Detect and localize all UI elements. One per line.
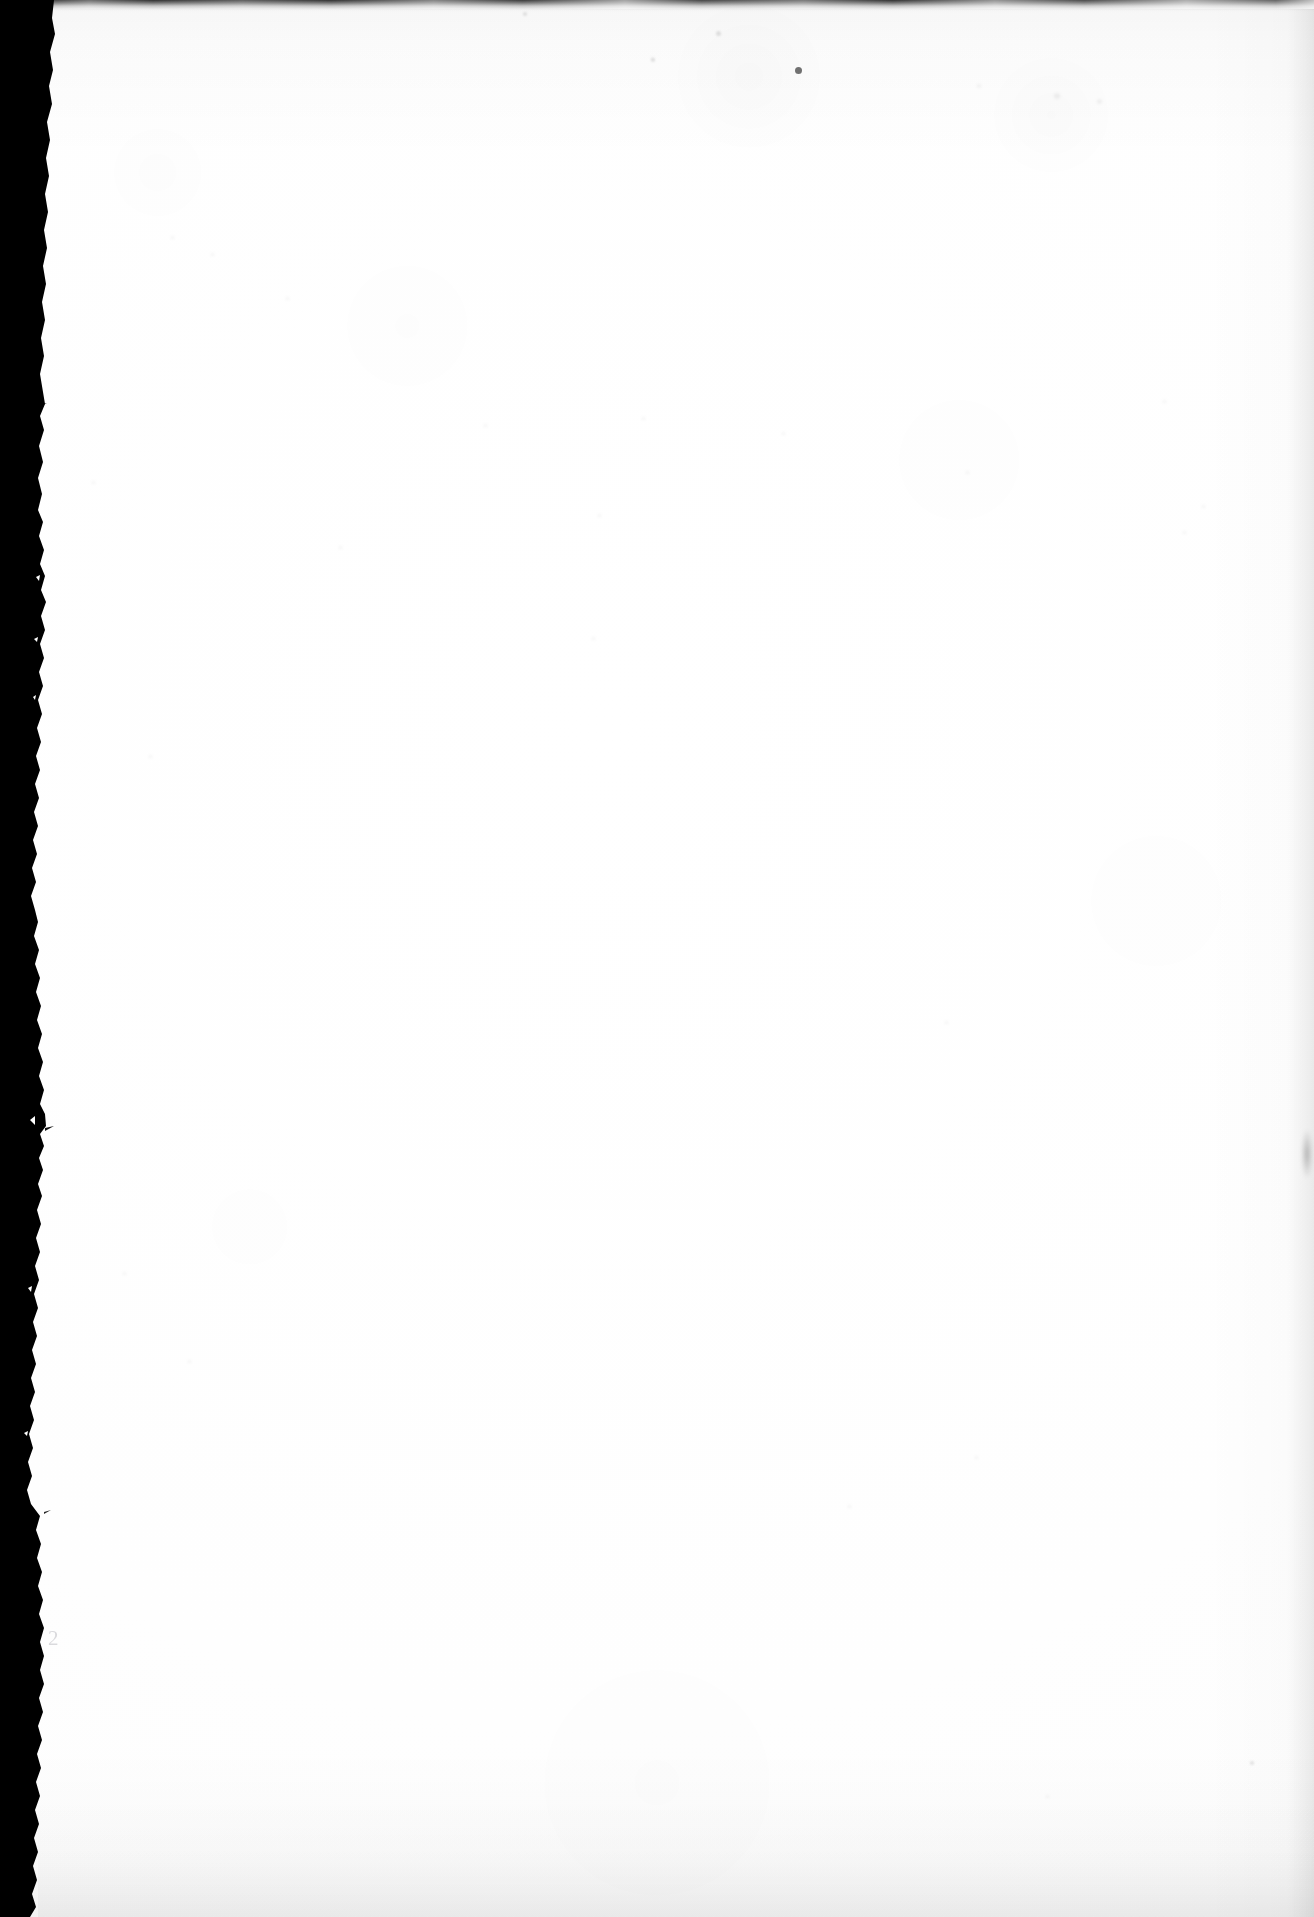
- page-number: 2: [48, 1628, 59, 1649]
- scanner-bottom-shadow: [38, 1797, 1314, 1917]
- scanned-page: 2: [0, 0, 1314, 1917]
- scanner-right-dark-spot: [1302, 1130, 1312, 1178]
- scanner-top-smudge-mottle: [38, 0, 1314, 9]
- paper-grain-texture: [0, 0, 1314, 1917]
- scanner-right-shadow: [1288, 0, 1314, 1917]
